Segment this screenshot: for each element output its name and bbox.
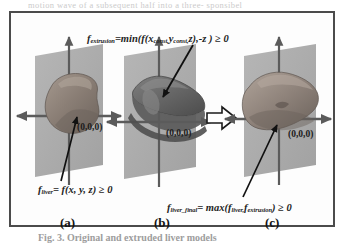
panel-a-graphic <box>17 37 121 185</box>
figure-illustration <box>11 13 337 229</box>
panel-letter-a: (a) <box>60 215 75 231</box>
origin-label-panel-b: (0,0,0) <box>166 128 191 138</box>
formula-final-sub2: extrusion <box>248 206 272 213</box>
panel-c-graphic <box>225 37 331 197</box>
formula-liver-lhs-sub: liver <box>42 188 53 195</box>
formula-extrusion-eq: =min(f(x <box>115 33 154 44</box>
formula-extrusion-lhs-sub: extrusion <box>91 37 115 44</box>
formula-liver-tail: = f(x, y, z) ≥ 0 <box>53 184 112 195</box>
figure-frame: fextrusion=min(f(xconst,yconst,z),-z ) ≥… <box>9 11 335 227</box>
formula-extrusion-sub1: const, <box>154 37 169 44</box>
panel-b-graphic <box>107 37 211 187</box>
origin-label-panel-c: (0,0,0) <box>288 129 313 139</box>
formula-extrusion-tail: z),-z ) ≥ 0 <box>188 33 228 44</box>
scan-bleed-text: motion wave of a subsequent half into a … <box>28 0 328 11</box>
formula-final-tail: ) ≥ 0 <box>272 202 292 213</box>
formula-final-eq: = max(f <box>197 202 231 213</box>
panel-letter-c: (c) <box>265 215 279 231</box>
formula-liver-final: fliver_final= max(fliver,fextrusion) ≥ 0 <box>167 203 292 214</box>
formula-extrusion: fextrusion=min(f(xconst,yconst,z),-z ) ≥… <box>87 34 229 45</box>
formula-liver: fliver= f(x, y, z) ≥ 0 <box>38 185 112 196</box>
origin-label-panel-a: (0,0,0) <box>77 122 102 132</box>
formula-final-sub1: liver, <box>231 206 244 213</box>
formula-final-lhs-sub: liver_final <box>171 206 198 213</box>
formula-extrusion-sub2: const, <box>173 37 188 44</box>
panel-letter-b: (b) <box>154 215 170 231</box>
figure-caption: Fig. 3. Original and extruded liver mode… <box>38 232 328 244</box>
